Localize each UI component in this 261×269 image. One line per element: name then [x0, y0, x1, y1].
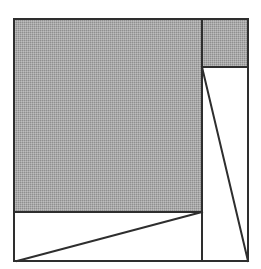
- pythagorean-diagram: [0, 0, 261, 269]
- large-square: [14, 19, 202, 212]
- small-square: [202, 19, 248, 67]
